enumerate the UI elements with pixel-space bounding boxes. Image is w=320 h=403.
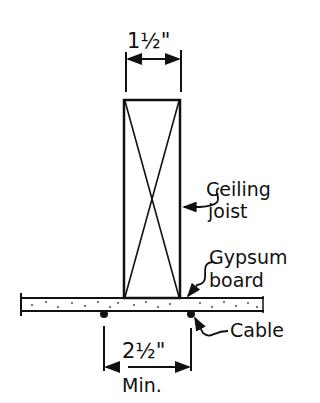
cable-spacing-qualifier: Min. bbox=[122, 376, 162, 395]
joist-callout-line1: Ceiling bbox=[206, 180, 271, 199]
cable-callout: Cable bbox=[230, 321, 284, 340]
gypsum-board bbox=[20, 293, 264, 316]
cable-right bbox=[187, 310, 195, 318]
cable-spacing-label: 2½" bbox=[122, 341, 165, 362]
joist-width-dimension bbox=[126, 50, 181, 92]
board-callout-line1: Gypsum bbox=[209, 248, 287, 267]
cable-left bbox=[100, 310, 108, 318]
board-callout-line2: board bbox=[209, 271, 264, 290]
joist-callout-line2: joist bbox=[208, 202, 248, 221]
joist-width-label: 1½" bbox=[127, 31, 170, 52]
cable-leader bbox=[195, 318, 228, 336]
ceiling-joist bbox=[124, 100, 180, 298]
